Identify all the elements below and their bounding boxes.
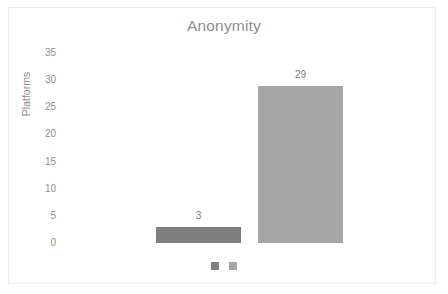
bar-value-label: 3 <box>156 211 241 221</box>
chart-container: Anonymity Platforms 35 30 25 20 15 10 5 … <box>0 0 448 294</box>
chart-title: Anonymity <box>0 17 448 35</box>
chart-legend <box>0 262 448 270</box>
y-axis-tick-labels: 35 30 25 20 15 10 5 0 <box>22 53 56 243</box>
y-tick-label: 10 <box>26 184 56 194</box>
legend-swatch-series-2[interactable] <box>229 262 237 270</box>
y-tick-label: 25 <box>26 102 56 112</box>
y-tick-label: 30 <box>26 75 56 85</box>
y-tick-label: 20 <box>26 129 56 139</box>
y-tick-label: 0 <box>26 238 56 248</box>
y-tick-label: 15 <box>26 157 56 167</box>
bar-series-2[interactable] <box>258 86 343 243</box>
y-tick-label: 35 <box>26 48 56 58</box>
y-tick-label: 5 <box>26 211 56 221</box>
bar-series-1[interactable] <box>156 227 241 243</box>
bar-value-label: 29 <box>258 70 343 80</box>
plot-area: 3 29 <box>62 53 372 243</box>
legend-swatch-series-1[interactable] <box>211 262 219 270</box>
